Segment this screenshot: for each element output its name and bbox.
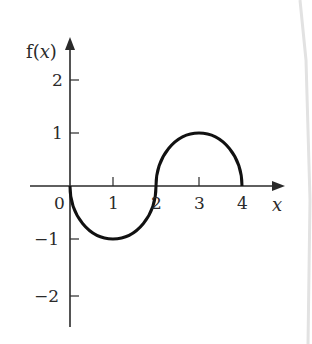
x-tick-label-3: 3	[194, 193, 205, 213]
x-axis-label: x	[272, 194, 282, 215]
y-tick-label-1: 1	[52, 123, 63, 143]
y-tick-label-m1: −1	[34, 229, 59, 249]
x-tick-label-4: 4	[237, 193, 248, 213]
x-axis-arrow-icon	[272, 181, 285, 191]
origin-label: 0	[54, 193, 65, 213]
y-tick-label-m2: −2	[34, 286, 59, 306]
y-tick-label-2: 2	[52, 70, 63, 90]
x-tick-label-1: 1	[108, 193, 119, 213]
y-axis-arrow-icon	[65, 37, 75, 50]
y-axis-label: f(x)	[26, 41, 57, 62]
function-graph: f(x) 2 1 −1 −2 0 1 2 3 4 x	[0, 0, 312, 344]
x-tick-label-2: 2	[151, 193, 162, 213]
page-edge	[300, 0, 310, 344]
